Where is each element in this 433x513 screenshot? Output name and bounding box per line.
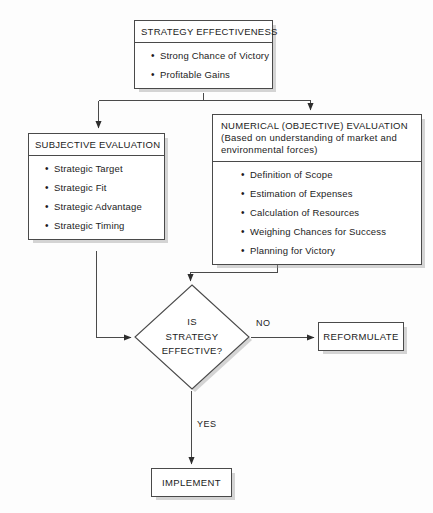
edge-label-no: NO	[256, 318, 271, 328]
node-implement[interactable]: IMPLEMENT	[151, 468, 232, 497]
list-item: •Strategic Fit	[45, 183, 158, 193]
list-item: •Estimation of Expenses	[241, 189, 415, 199]
node-strategy-effectiveness-list: •Strong Chance of Victory •Profitable Ga…	[135, 43, 272, 88]
list-item: •Calculation of Resources	[241, 208, 415, 218]
list-item-label: Planning for Victory	[250, 245, 335, 256]
bullet-icon: •	[241, 227, 250, 237]
list-item: •Profitable Gains	[151, 70, 266, 80]
bullet-icon: •	[241, 170, 250, 180]
list-item: •Strong Chance of Victory	[151, 51, 266, 61]
bullet-icon: •	[45, 183, 54, 193]
node-numerical-evaluation-header-line3: environmental forces)	[221, 144, 414, 156]
node-numerical-evaluation[interactable]: NUMERICAL (OBJECTIVE) EVALUATION (Based …	[212, 114, 422, 265]
node-decision-is-strategy-effective[interactable]: IS STRATEGY EFFECTIVE?	[134, 284, 250, 390]
list-item: •Strategic Target	[45, 164, 158, 174]
list-item: •Definition of Scope	[241, 170, 415, 180]
list-item-label: Strong Chance of Victory	[160, 50, 269, 61]
bullet-icon: •	[45, 221, 54, 231]
list-item-label: Strategic Target	[54, 163, 123, 174]
bullet-icon: •	[45, 164, 54, 174]
list-item-label: Calculation of Resources	[250, 207, 359, 218]
list-item: •Strategic Advantage	[45, 202, 158, 212]
node-subjective-evaluation-list: •Strategic Target •Strategic Fit •Strate…	[29, 156, 164, 239]
wire-numerical-to-decision	[191, 264, 278, 282]
node-subjective-evaluation[interactable]: SUBJECTIVE EVALUATION •Strategic Target …	[28, 133, 165, 240]
node-reformulate[interactable]: REFORMULATE	[318, 322, 404, 351]
node-numerical-evaluation-header: NUMERICAL (OBJECTIVE) EVALUATION (Based …	[213, 115, 421, 162]
bullet-icon: •	[241, 189, 250, 199]
bullet-icon: •	[241, 208, 250, 218]
node-strategy-effectiveness-header: STRATEGY EFFECTIVENESS	[135, 21, 272, 43]
node-numerical-evaluation-list: •Definition of Scope •Estimation of Expe…	[213, 162, 421, 264]
node-strategy-effectiveness[interactable]: STRATEGY EFFECTIVENESS •Strong Chance of…	[134, 20, 273, 89]
decision-outline	[134, 284, 250, 390]
node-numerical-evaluation-header-line1: NUMERICAL (OBJECTIVE) EVALUATION	[221, 120, 414, 132]
list-item-label: Strategic Advantage	[54, 201, 142, 212]
list-item-label: Definition of Scope	[250, 169, 333, 180]
list-item-label: Profitable Gains	[160, 69, 230, 80]
list-item: •Strategic Timing	[45, 221, 158, 231]
bullet-icon: •	[45, 202, 54, 212]
bullet-icon: •	[241, 246, 250, 256]
list-item-label: Strategic Timing	[54, 220, 125, 231]
list-item-label: Weighing Chances for Success	[250, 226, 386, 237]
list-item-label: Estimation of Expenses	[250, 188, 353, 199]
bullet-icon: •	[151, 70, 160, 80]
wire-subjective-to-decision	[97, 251, 132, 338]
flowchart-canvas: STRATEGY EFFECTIVENESS •Strong Chance of…	[0, 0, 433, 513]
node-subjective-evaluation-header: SUBJECTIVE EVALUATION	[29, 134, 164, 156]
list-item: •Planning for Victory	[241, 246, 415, 256]
list-item-label: Strategic Fit	[54, 182, 107, 193]
node-numerical-evaluation-header-line2: (Based on understanding of market and	[221, 132, 414, 144]
bullet-icon: •	[151, 51, 160, 61]
edge-label-yes: YES	[197, 419, 217, 429]
list-item: •Weighing Chances for Success	[241, 227, 415, 237]
